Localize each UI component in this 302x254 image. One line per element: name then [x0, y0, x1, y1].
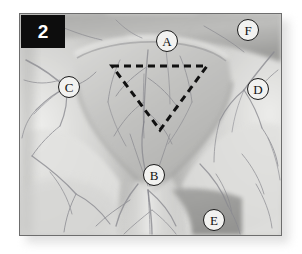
photo-frame: 2 A B C D E F — [19, 13, 282, 236]
marker-c: C — [58, 76, 80, 98]
figure-number-badge: 2 — [21, 15, 65, 48]
marker-b: B — [143, 164, 165, 186]
marker-d: D — [247, 78, 269, 100]
marker-a: A — [156, 30, 178, 52]
figure-root: 2 A B C D E F — [0, 0, 302, 254]
marker-f: F — [237, 19, 259, 41]
marker-e: E — [203, 209, 225, 231]
